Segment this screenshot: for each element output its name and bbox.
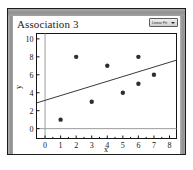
data-point[interactable] [105,64,109,68]
x-tick-label: 7 [152,141,156,150]
chevron-down-icon [171,22,175,24]
data-point[interactable] [152,73,156,77]
scrollbar-right[interactable] [180,16,185,154]
data-point[interactable] [136,55,140,59]
x-tick-label: 0 [43,141,47,150]
chart-header: Association 3 Linear Fit [14,16,180,32]
x-tick-label: 3 [90,141,94,150]
y-tick-label: 4 [30,89,34,98]
y-tick-label: 6 [30,71,34,80]
y-tick-label: 8 [30,53,34,62]
data-point[interactable] [136,82,140,86]
y-tick-label: 0 [30,125,34,134]
y-tick-label: 2 [30,107,34,116]
x-tick-label: 6 [136,141,140,150]
data-point[interactable] [58,117,62,121]
screenshot-root: Association 3 Linear Fit 0246810 0123456… [0,0,193,170]
x-tick-label: 2 [74,141,78,150]
y-axis-label: y [14,85,23,89]
x-axis-label: x [104,145,108,154]
page-title: Association 3 [17,17,79,31]
data-point[interactable] [121,91,125,95]
x-tick-label: 8 [168,141,172,150]
data-point[interactable] [90,100,94,104]
app-content-area: Association 3 Linear Fit 0246810 0123456… [14,16,180,154]
window-title-bar[interactable] [8,9,185,16]
linear-fit-button-label: Linear Fit [152,20,167,25]
y-tick-label: 10 [26,35,34,44]
linear-fit-button[interactable]: Linear Fit [149,18,178,27]
x-tick-label: 1 [59,141,63,150]
x-tick-label: 5 [121,141,125,150]
data-point[interactable] [74,55,78,59]
scrollbar-left[interactable] [8,16,13,154]
scatter-plot[interactable]: 0246810 012345678 x y [14,31,180,154]
plot-canvas: 0246810 012345678 x y [14,31,180,154]
plot-frame [37,34,177,139]
